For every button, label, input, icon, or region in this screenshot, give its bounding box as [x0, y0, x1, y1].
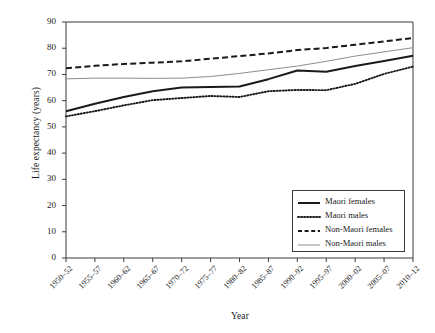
- legend-label: Maori males: [325, 209, 368, 221]
- chart-legend: Maori femalesMaori malesNon-Maori female…: [292, 190, 405, 252]
- legend-item[interactable]: Non-Maori females: [293, 222, 404, 236]
- y-axis-title: Life expectancy (years): [31, 53, 41, 213]
- solid-line-key: [297, 195, 321, 207]
- series-line-maori-females: [66, 56, 413, 111]
- x-axis-title: Year: [66, 311, 414, 321]
- y-tick-label: 10: [34, 226, 56, 236]
- series-line-non-maori-females: [66, 38, 413, 68]
- series-line-non-maori-males: [66, 48, 413, 79]
- x-axis-ticks: [66, 258, 413, 262]
- dashed-line-key: [297, 223, 321, 235]
- legend-item[interactable]: Maori males: [293, 208, 404, 222]
- series-line-maori-males: [66, 67, 413, 117]
- dotted-line-key: [297, 209, 321, 221]
- legend-item[interactable]: Maori females: [293, 194, 404, 208]
- y-tick-label: 80: [34, 42, 56, 52]
- legend-label: Non-Maori males: [325, 237, 386, 249]
- legend-label: Maori females: [325, 195, 375, 207]
- y-axis-ticks: [62, 22, 66, 258]
- legend-label: Non-Maori females: [325, 223, 393, 235]
- legend-item[interactable]: Non-Maori males: [293, 236, 404, 250]
- y-tick-label: 0: [34, 252, 56, 262]
- data-series-group: [66, 38, 413, 116]
- thin-gray-line-key: [297, 237, 321, 249]
- y-tick-label: 90: [34, 16, 56, 26]
- line-chart-figure: 0102030405060708090 1950–521955–571960–6…: [0, 0, 435, 333]
